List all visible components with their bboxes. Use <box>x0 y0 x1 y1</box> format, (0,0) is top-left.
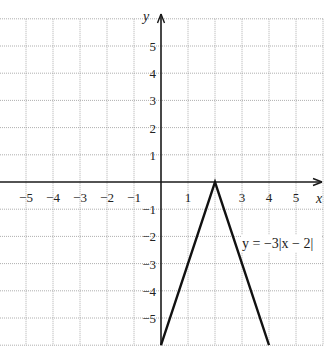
y-tick-label: −3 <box>142 257 156 272</box>
y-axis-label: y <box>141 9 150 24</box>
axes: xy <box>0 9 323 345</box>
x-tick-label: −3 <box>73 190 87 205</box>
x-tick-label: −5 <box>19 190 33 205</box>
graph-canvas: xy −5−4−3−2−1134554321−1−2−3−4−5 y = −3|… <box>0 0 325 351</box>
y-tick-label: −4 <box>142 284 156 299</box>
x-tick-label: 1 <box>185 190 192 205</box>
y-tick-label: 1 <box>150 148 157 163</box>
x-axis-label: x <box>315 191 323 206</box>
x-tick-label: 3 <box>239 190 246 205</box>
x-tick-label: −1 <box>127 190 141 205</box>
y-tick-label: 2 <box>150 121 157 136</box>
equation-annotation: y = −3|x − 2| <box>241 235 322 252</box>
y-tick-label: −1 <box>142 202 156 217</box>
y-tick-label: 3 <box>150 93 157 108</box>
x-tick-label: −2 <box>100 190 114 205</box>
y-tick-label: −5 <box>142 311 156 326</box>
y-tick-label: −2 <box>142 229 156 244</box>
x-tick-label: 5 <box>293 190 300 205</box>
x-tick-label: −4 <box>46 190 60 205</box>
equation-label: y = −3|x − 2| <box>242 236 313 251</box>
y-tick-label: 4 <box>150 66 157 81</box>
y-tick-label: 5 <box>150 39 157 54</box>
x-tick-label: 4 <box>266 190 273 205</box>
